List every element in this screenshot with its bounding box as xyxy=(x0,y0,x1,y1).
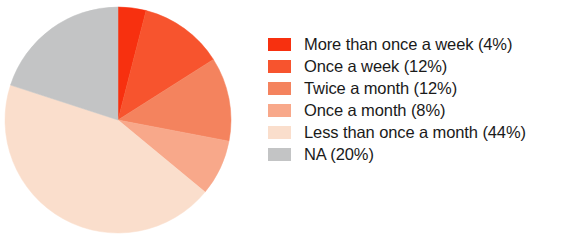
legend-color-swatch xyxy=(268,126,291,139)
legend-color-swatch xyxy=(268,38,291,51)
pie-chart-graphic xyxy=(0,0,250,240)
legend-item: Once a week (12%) xyxy=(268,55,568,77)
legend-item: Less than once a month (44%) xyxy=(268,121,568,143)
legend-color-swatch xyxy=(268,148,291,161)
legend-color-swatch xyxy=(268,104,291,117)
legend-item: Twice a month (12%) xyxy=(268,77,568,99)
chart-legend: More than once a week (4%)Once a week (1… xyxy=(268,33,568,165)
pie-chart-figure: More than once a week (4%)Once a week (1… xyxy=(0,0,569,240)
pie-svg xyxy=(0,0,250,240)
legend-item: More than once a week (4%) xyxy=(268,33,568,55)
legend-item-label: More than once a week (4%) xyxy=(304,36,512,53)
legend-item: Once a month (8%) xyxy=(268,99,568,121)
legend-item-label: NA (20%) xyxy=(304,146,374,163)
pie-slice-group xyxy=(5,7,231,233)
legend-color-swatch xyxy=(268,60,291,73)
legend-color-swatch xyxy=(268,82,291,95)
legend-item: NA (20%) xyxy=(268,143,568,165)
legend-item-label: Once a week (12%) xyxy=(304,58,447,75)
legend-item-label: Less than once a month (44%) xyxy=(304,124,526,141)
legend-item-label: Twice a month (12%) xyxy=(304,80,457,97)
legend-item-label: Once a month (8%) xyxy=(304,102,445,119)
